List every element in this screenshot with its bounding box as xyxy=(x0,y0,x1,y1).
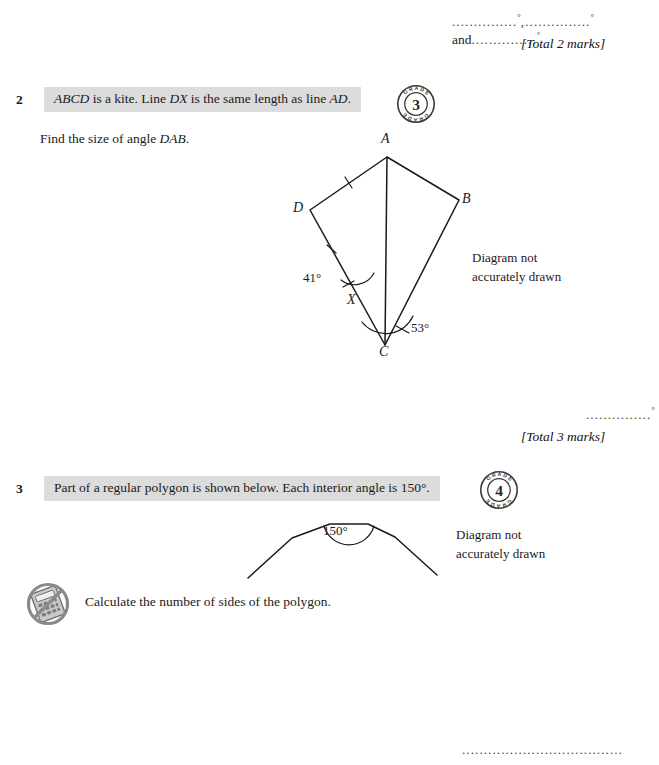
q2-stem-dx: DX xyxy=(169,91,187,106)
badge-3-arc-bottom: GRADE xyxy=(400,111,430,123)
vertex-label-c: C xyxy=(379,344,388,360)
vertex-label-x: X xyxy=(347,292,356,308)
top-answer-dots-1[interactable]: ............... xyxy=(452,14,517,29)
diagram-note-q2-line1: Diagram not xyxy=(472,249,561,268)
angle-label-41: 41° xyxy=(303,270,321,286)
vertex-label-a: A xyxy=(381,131,390,147)
question-2-stem: ABCD is a kite. Line DX is the same leng… xyxy=(44,87,361,112)
interior-angle-label: 150° xyxy=(323,523,348,539)
q2-answer-dots[interactable]: ............... xyxy=(586,407,651,422)
no-calculator-icon xyxy=(22,582,74,626)
q2-stem-ad: AD xyxy=(330,91,348,106)
grade-badge-3: GRADE GRADE 3 xyxy=(396,84,436,124)
q2-stem-text-3: . xyxy=(348,91,351,106)
question-3-instruction: Calculate the number of sides of the pol… xyxy=(85,594,331,610)
total-marks-q1: [Total 2 marks] xyxy=(521,36,605,52)
angle-arc-53-tick xyxy=(396,326,409,333)
and-label: and xyxy=(452,33,472,48)
q2-stem-text-2: is the same length as line xyxy=(187,91,329,106)
question-3-number: 3 xyxy=(16,481,23,497)
badge-4-value: 4 xyxy=(495,482,503,499)
badge-3-value: 3 xyxy=(412,96,420,113)
q2-instruction-suffix: . xyxy=(186,131,189,146)
q3-answer-dots[interactable]: ..................................... xyxy=(462,742,623,758)
q2-instruction-prefix: Find the size of angle xyxy=(40,131,160,146)
diagram-note-q3: Diagram not accurately drawn xyxy=(456,526,545,564)
kite-diagonal-ac xyxy=(385,157,387,345)
question-2-instruction: Find the size of angle DAB. xyxy=(40,131,189,147)
svg-text:GRADE: GRADE xyxy=(400,111,430,123)
diagram-note-q2-line2: accurately drawn xyxy=(472,268,561,287)
question-3-stem: Part of a regular polygon is shown below… xyxy=(44,476,440,501)
diagram-note-q2: Diagram not accurately drawn xyxy=(472,249,561,287)
diagram-note-q3-line2: accurately drawn xyxy=(456,545,545,564)
polygon-diagram: 150° xyxy=(240,512,450,592)
total-marks-q2: [Total 3 marks] xyxy=(521,429,605,445)
kite-diagram: A B C D X 41° 53° xyxy=(280,140,490,360)
q2-instruction-angle: DAB xyxy=(160,131,186,146)
angle-label-53: 53° xyxy=(411,320,429,336)
q2-stem-text-1: is a kite. Line xyxy=(89,91,169,106)
question-2-answer-row: ...............° xyxy=(586,405,655,423)
kite-outline xyxy=(310,157,459,345)
worksheet-page: ...............°,...............° and...… xyxy=(0,0,659,765)
q2-degree-symbol: ° xyxy=(651,405,655,415)
vertex-label-d: D xyxy=(293,200,303,216)
top-answer-dots-2[interactable]: ............... xyxy=(525,14,590,29)
vertex-label-b: B xyxy=(462,191,471,207)
diagram-note-q3-line1: Diagram not xyxy=(456,526,545,545)
degree-symbol-2: ° xyxy=(590,12,594,22)
q2-stem-abcd: ABCD xyxy=(54,91,89,106)
badge-4-arc-bottom: GRADE xyxy=(483,497,513,509)
tick-mark-dx xyxy=(327,245,336,253)
svg-text:GRADE: GRADE xyxy=(483,497,513,509)
question-2-number: 2 xyxy=(16,92,23,108)
grade-badge-4: GRADE GRADE 4 xyxy=(479,470,519,510)
